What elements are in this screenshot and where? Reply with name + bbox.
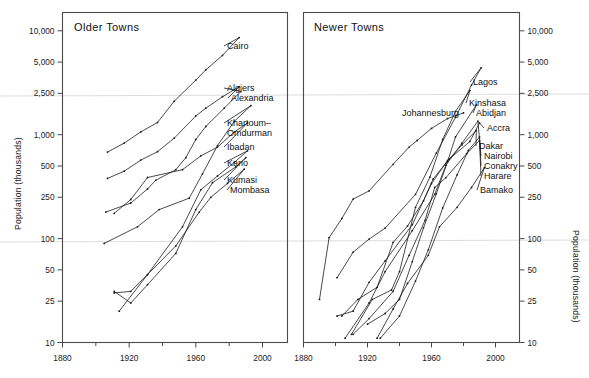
data-point — [319, 299, 321, 301]
data-point — [411, 261, 413, 263]
left-y-axis-ticks — [58, 31, 63, 343]
data-point — [147, 177, 149, 179]
data-point — [336, 277, 338, 279]
data-point — [435, 193, 437, 195]
data-point — [195, 79, 197, 81]
data-point — [434, 193, 436, 195]
y-tick-label: 10,000 — [29, 26, 55, 36]
data-point — [351, 333, 353, 335]
y-tick-label: 50 — [528, 265, 538, 275]
data-point — [175, 253, 177, 255]
data-point — [455, 136, 457, 138]
data-point — [158, 209, 160, 211]
data-point — [442, 207, 444, 209]
data-point — [328, 237, 330, 239]
city-label: Ibadan — [227, 142, 255, 152]
data-point — [435, 152, 437, 154]
data-point — [123, 170, 125, 172]
data-point — [368, 281, 370, 283]
data-point — [195, 115, 197, 117]
data-point — [415, 193, 417, 195]
data-point — [113, 291, 115, 293]
data-point — [217, 146, 219, 148]
data-point — [344, 337, 346, 339]
data-point — [392, 291, 394, 293]
data-point — [384, 227, 386, 229]
data-point — [352, 198, 354, 200]
data-point — [368, 238, 370, 240]
y-tick-label: 10,000 — [528, 26, 554, 36]
series-line — [108, 87, 240, 179]
y-tick-label: 1,000 — [34, 130, 55, 140]
series-line — [342, 130, 476, 316]
data-point — [200, 189, 202, 191]
data-point — [423, 227, 425, 229]
data-point — [182, 226, 184, 228]
data-point — [439, 226, 441, 228]
data-point — [392, 242, 394, 244]
city-label: Nairobi — [484, 151, 513, 161]
series-line — [337, 68, 481, 278]
data-point — [392, 308, 394, 310]
data-point — [147, 284, 149, 286]
data-point — [408, 146, 410, 148]
data-point — [352, 310, 354, 312]
data-point — [415, 206, 417, 208]
data-point — [147, 274, 149, 276]
data-point — [173, 100, 175, 102]
y-tick-label: 10 — [45, 338, 55, 348]
city-label: Dakar — [479, 141, 503, 151]
series-line — [377, 168, 484, 338]
data-point — [384, 313, 386, 315]
city-label: Harare — [484, 171, 512, 181]
city-label: Kinshasa — [469, 98, 506, 108]
left-x-axis-tick-labels: 1880192019602000 — [53, 353, 272, 363]
right-y-axis-ticks — [520, 31, 525, 343]
data-point — [188, 197, 190, 199]
data-point — [130, 291, 132, 293]
right-y-axis-title: Population (thousands) — [571, 230, 581, 323]
city-label: Abidjan — [476, 108, 506, 118]
leader-line — [480, 123, 485, 128]
data-point — [175, 245, 177, 247]
y-tick-label: 100 — [528, 234, 542, 244]
data-point — [173, 137, 175, 139]
x-tick-label: 2000 — [253, 353, 272, 363]
data-point — [107, 151, 109, 153]
right-panel-title: Newer Towns — [314, 21, 384, 33]
data-point — [434, 187, 436, 189]
data-point — [384, 260, 386, 262]
data-point — [461, 142, 463, 144]
data-point — [415, 280, 417, 282]
data-point — [432, 178, 434, 180]
data-point — [140, 131, 142, 133]
data-point — [222, 96, 224, 98]
city-label: Lagos — [473, 77, 498, 87]
left-y-axis-tick-labels: 1025501002505001,0002,5005,00010,000 — [29, 26, 55, 348]
data-point — [416, 140, 418, 142]
data-point — [357, 299, 359, 301]
data-point — [399, 271, 401, 273]
data-point — [157, 122, 159, 124]
data-point — [217, 175, 219, 177]
data-point — [210, 196, 212, 198]
x-tick-label: 1880 — [53, 353, 72, 363]
data-point — [123, 142, 125, 144]
data-point — [471, 187, 473, 189]
data-point — [147, 188, 149, 190]
data-point — [469, 141, 471, 143]
data-point — [456, 206, 458, 208]
data-point — [336, 315, 338, 317]
series-line — [380, 137, 479, 338]
left-panel-title: Older Towns — [74, 21, 139, 33]
data-point — [368, 318, 370, 320]
left-x-axis-ticks — [63, 343, 263, 348]
data-point — [408, 254, 410, 256]
city-label: Accra — [487, 123, 510, 133]
city-label: Mombasa — [230, 185, 270, 195]
chart-canvas: Older Towns 1025501002505001,0002,5005,0… — [0, 0, 589, 378]
data-point — [341, 218, 343, 220]
data-point — [431, 127, 433, 129]
data-point — [379, 337, 381, 339]
x-tick-label: 1880 — [294, 353, 313, 363]
